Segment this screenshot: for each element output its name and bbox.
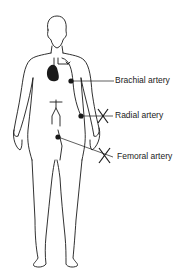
body-figure: [0, 0, 192, 275]
leg-left: [32, 160, 55, 267]
femoral-artery-label: Femoral artery: [117, 151, 172, 161]
head-outline: [47, 16, 66, 48]
torso-right: [63, 53, 99, 137]
heart-icon: [47, 65, 59, 82]
leg-right: [57, 160, 82, 267]
radial-artery-label: Radial artery: [115, 110, 163, 120]
brachial-artery-label: Brachial artery: [115, 75, 170, 85]
torso-left: [14, 53, 51, 137]
